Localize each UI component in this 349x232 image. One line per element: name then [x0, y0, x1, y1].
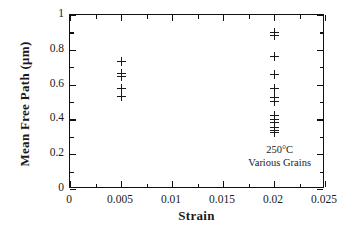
annotation-sample: Various Grains — [248, 156, 311, 169]
y-tick-major — [70, 154, 76, 155]
annotation-temperature: 250°C — [248, 143, 311, 156]
x-tick-major-top — [70, 15, 71, 21]
x-tick-major — [325, 181, 326, 187]
data-point-marker — [117, 69, 126, 78]
x-axis-title: Strain — [69, 208, 324, 224]
x-tick-minor — [249, 184, 250, 188]
y-tick-minor-right — [320, 102, 324, 103]
y-tick-major — [70, 189, 76, 190]
x-tick-major-top — [325, 15, 326, 21]
y-tick-minor — [70, 67, 74, 68]
data-point-marker — [270, 126, 279, 135]
y-tick-major-right — [317, 189, 323, 190]
y-tick-minor-right — [320, 67, 324, 68]
data-point-marker — [270, 52, 279, 61]
data-point-marker — [117, 57, 126, 66]
x-tick-label: 0.015 — [209, 194, 235, 206]
y-axis-title: Mean Free Path (μm) — [17, 17, 33, 191]
y-tick-minor — [70, 102, 74, 103]
x-tick-label: 0.01 — [161, 194, 181, 206]
x-tick-minor-top — [249, 15, 250, 19]
x-tick-major — [172, 181, 173, 187]
data-point-marker — [270, 70, 279, 79]
x-tick-minor-top — [147, 15, 148, 19]
data-point-marker — [270, 118, 279, 127]
y-tick-minor-right — [320, 172, 324, 173]
x-tick-minor — [198, 184, 199, 188]
x-tick-major — [223, 181, 224, 187]
x-tick-major — [121, 181, 122, 187]
y-tick-major-right — [317, 119, 323, 120]
x-tick-label: 0.005 — [107, 194, 133, 206]
data-point-marker — [270, 115, 279, 124]
y-tick-label: 0.4 — [50, 112, 64, 124]
x-tick-minor — [300, 184, 301, 188]
y-tick-major-right — [317, 85, 323, 86]
data-point-marker — [270, 31, 279, 40]
data-point-marker — [270, 93, 279, 102]
x-tick-major — [70, 181, 71, 187]
y-tick-major-right — [317, 50, 323, 51]
y-tick-major — [70, 119, 76, 120]
x-tick-label: 0 — [66, 194, 72, 206]
y-tick-label: 0.6 — [50, 78, 64, 90]
chart-figure: Mean Free Path (μm) Strain 00.20.40.60.8… — [0, 0, 349, 232]
x-tick-minor-top — [96, 15, 97, 19]
x-tick-major-top — [121, 15, 122, 21]
y-tick-major-right — [317, 15, 323, 16]
x-tick-minor-top — [198, 15, 199, 19]
y-tick-major — [70, 85, 76, 86]
y-tick-minor — [70, 172, 74, 173]
y-tick-minor — [70, 137, 74, 138]
y-tick-label: 0.8 — [50, 43, 64, 55]
data-point-marker — [117, 72, 126, 81]
data-point-marker — [117, 92, 126, 101]
y-tick-minor-right — [320, 137, 324, 138]
y-tick-minor — [70, 32, 74, 33]
x-tick-label: 0.02 — [263, 194, 283, 206]
plot-area: 250°C Various Grains — [69, 14, 324, 188]
data-point-marker — [117, 84, 126, 93]
data-point-marker — [270, 128, 279, 137]
x-tick-major-top — [274, 15, 275, 21]
x-tick-major — [274, 181, 275, 187]
x-tick-minor — [96, 184, 97, 188]
y-tick-minor-right — [320, 32, 324, 33]
x-tick-minor-top — [300, 15, 301, 19]
data-point-marker — [270, 84, 279, 93]
y-tick-label: 0.2 — [50, 147, 64, 159]
x-tick-label: 0.025 — [311, 194, 337, 206]
data-point-marker — [270, 111, 279, 120]
y-tick-label: 1 — [58, 8, 64, 20]
data-point-marker — [270, 28, 279, 37]
x-tick-major-top — [172, 15, 173, 21]
plot-annotation: 250°C Various Grains — [248, 143, 311, 169]
x-tick-major-top — [223, 15, 224, 21]
y-tick-major — [70, 50, 76, 51]
y-tick-major-right — [317, 154, 323, 155]
data-point-marker — [270, 123, 279, 132]
y-tick-label: 0 — [58, 182, 64, 194]
data-point-marker — [270, 97, 279, 106]
x-tick-minor — [147, 184, 148, 188]
